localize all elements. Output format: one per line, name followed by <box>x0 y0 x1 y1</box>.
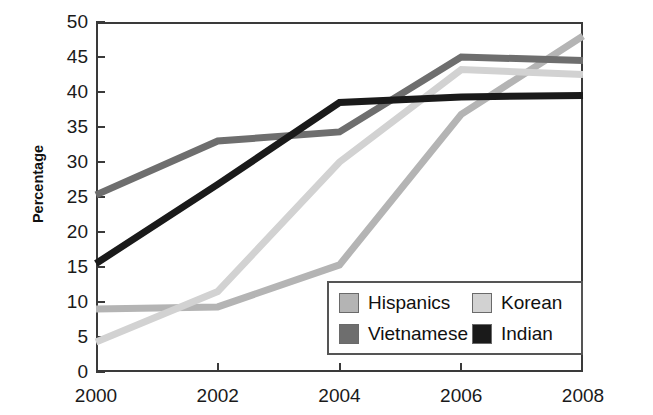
legend-label-hispanics: Hispanics <box>368 293 450 312</box>
legend-item-vietnamese[interactable]: Vietnamese <box>339 324 468 344</box>
legend-swatch-vietnamese <box>339 324 359 344</box>
line-vietnamese <box>96 57 583 195</box>
legend-swatch-hispanics <box>339 293 359 313</box>
legend-label-vietnamese: Vietnamese <box>368 324 468 343</box>
legend-swatch-indian <box>472 324 492 344</box>
legend-swatch-korean <box>472 293 492 313</box>
legend-item-korean[interactable]: Korean <box>472 293 575 313</box>
chart-canvas: Percentage 50454035302520151050 20002002… <box>0 0 653 415</box>
legend: Hispanics Korean Vietnamese Indian <box>327 281 583 355</box>
legend-label-indian: Indian <box>501 324 553 343</box>
line-hispanics <box>96 36 583 309</box>
line-indian <box>96 96 583 264</box>
legend-label-korean: Korean <box>501 293 562 312</box>
legend-item-indian[interactable]: Indian <box>472 324 575 344</box>
legend-item-hispanics[interactable]: Hispanics <box>339 293 468 313</box>
